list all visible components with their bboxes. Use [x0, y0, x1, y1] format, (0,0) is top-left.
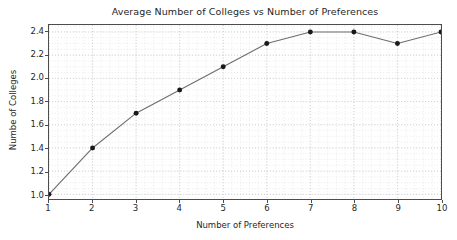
- y-tick-label: 1.6: [30, 120, 44, 129]
- x-tick-mark: [267, 200, 268, 203]
- data-series-line: [49, 25, 441, 199]
- y-axis-title: Numbe of Colleges: [8, 45, 18, 175]
- x-tick-mark: [179, 200, 180, 203]
- data-point-marker: [134, 111, 139, 116]
- x-tick-label: 4: [177, 204, 182, 213]
- x-tick-label: 5: [220, 204, 225, 213]
- x-tick-mark: [311, 200, 312, 203]
- x-tick-label: 8: [352, 204, 357, 213]
- y-tick-label: 1.8: [30, 97, 44, 106]
- chart-title: Average Number of Colleges vs Number of …: [48, 6, 442, 17]
- data-point-marker: [221, 64, 226, 69]
- x-tick-label: 1: [45, 204, 50, 213]
- x-tick-label: 2: [89, 204, 94, 213]
- data-point-marker: [439, 29, 441, 34]
- x-tick-mark: [136, 200, 137, 203]
- y-tick-label: 1.0: [30, 191, 44, 200]
- plot-area: [48, 24, 442, 200]
- x-tick-mark: [354, 200, 355, 203]
- x-tick-label: 7: [308, 204, 313, 213]
- data-point-marker: [395, 41, 400, 46]
- data-point-marker: [308, 29, 313, 34]
- data-point-marker: [264, 41, 269, 46]
- y-tick-label: 2.4: [30, 27, 44, 36]
- data-point-marker: [90, 145, 95, 150]
- x-tick-label: 3: [133, 204, 138, 213]
- data-point-marker: [351, 29, 356, 34]
- x-tick-label: 6: [264, 204, 269, 213]
- x-tick-label: 9: [396, 204, 401, 213]
- x-axis-tick-labels: 12345678910: [48, 204, 442, 216]
- x-tick-mark: [223, 200, 224, 203]
- x-axis-title: Number of Preferences: [48, 220, 442, 230]
- x-tick-mark: [398, 200, 399, 203]
- x-tick-label: 10: [437, 204, 448, 213]
- x-tick-mark: [442, 200, 443, 203]
- x-tick-mark: [92, 200, 93, 203]
- y-tick-label: 2.2: [30, 50, 44, 59]
- x-tick-mark: [48, 200, 49, 203]
- y-tick-label: 1.2: [30, 167, 44, 176]
- y-tick-label: 2.0: [30, 73, 44, 82]
- y-axis-tick-labels: 1.01.21.41.61.82.02.22.4: [20, 24, 44, 200]
- y-tick-label: 1.4: [30, 144, 44, 153]
- data-point-marker: [177, 87, 182, 92]
- chart-figure: Average Number of Colleges vs Number of …: [0, 0, 457, 240]
